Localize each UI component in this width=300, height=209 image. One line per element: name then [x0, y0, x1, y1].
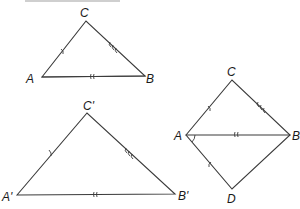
- vertex-label-c: C: [80, 6, 89, 20]
- vertex-label-b: B: [146, 72, 154, 86]
- vertex-label-a-kite: A: [173, 129, 182, 143]
- angle-arc-bad: [192, 135, 195, 142]
- triangle-a-prime-b-prime-c-prime: A' C' B': [1, 99, 189, 204]
- triangle-prime-outline: [17, 113, 175, 195]
- sss-congruence-diagram: A C B A' C' B': [0, 0, 300, 209]
- kite-acbd: C A B D: [173, 65, 300, 206]
- clipped-caption-text: [25, 0, 120, 2]
- triangle-abc: A C B: [25, 6, 154, 86]
- triangle-abc-outline: [42, 21, 145, 77]
- vertex-label-b-prime: B': [178, 189, 189, 203]
- vertex-label-a: A: [25, 72, 34, 86]
- vertex-label-c-kite: C: [227, 65, 236, 79]
- single-tick-a-prime-c-prime: [49, 150, 51, 156]
- vertex-label-d-kite: D: [227, 192, 236, 206]
- vertex-label-b-kite: B: [292, 129, 300, 143]
- vertex-label-a-prime: A': [1, 190, 13, 204]
- vertex-label-c-prime: C': [83, 99, 95, 113]
